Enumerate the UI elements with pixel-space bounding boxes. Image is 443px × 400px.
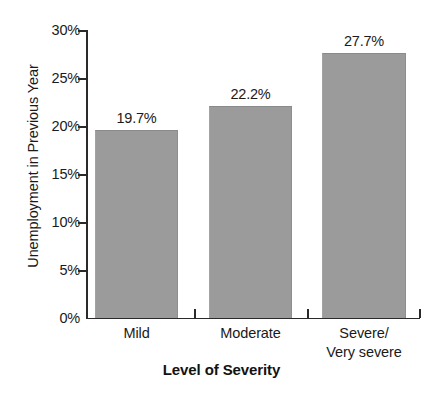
x-axis-line [86,318,420,320]
bar-severe-very-severe [322,53,406,318]
y-tick-label-15: 15% [40,167,80,182]
y-tick-mark-15 [78,174,86,176]
y-tick-mark-25 [78,78,86,80]
y-tick-mark-10 [78,222,86,224]
bar-value-label-moderate: 22.2% [209,86,292,102]
bar-chart: Unemployment in Previous Year 30% 25% 20… [0,0,443,400]
y-tick-label-20: 20% [40,119,80,134]
x-tick-mark-2 [307,309,309,318]
x-category-label-severe-line-2: Very severe [322,343,406,362]
x-axis-title: Level of Severity [0,361,443,378]
x-category-label-moderate-line-1: Moderate [209,324,292,343]
y-tick-mark-5 [78,270,86,272]
y-tick-mark-30 [78,30,86,32]
y-tick-label-10: 10% [40,215,80,230]
x-category-label-severe-line-1: Severe/ [322,324,406,343]
bar-moderate [209,106,292,318]
bar-value-label-mild: 19.7% [95,110,178,126]
bar-mild [95,130,178,318]
x-category-label-mild: Mild [95,324,178,343]
y-axis-tick-labels: 30% 25% 20% 15% 10% 5% 0% [40,0,80,400]
y-tick-label-0: 0% [40,311,80,326]
x-category-label-moderate: Moderate [209,324,292,343]
y-tick-label-30: 30% [40,23,80,38]
x-category-label-mild-line-1: Mild [95,324,178,343]
x-tick-mark-1 [194,309,196,318]
x-category-label-severe-very-severe: Severe/ Very severe [322,324,406,362]
y-tick-mark-20 [78,126,86,128]
bar-value-label-severe-very-severe: 27.7% [322,33,406,49]
y-tick-label-5: 5% [40,263,80,278]
y-tick-label-25: 25% [40,71,80,86]
x-tick-mark-3 [419,309,421,318]
y-axis-line [86,30,88,319]
